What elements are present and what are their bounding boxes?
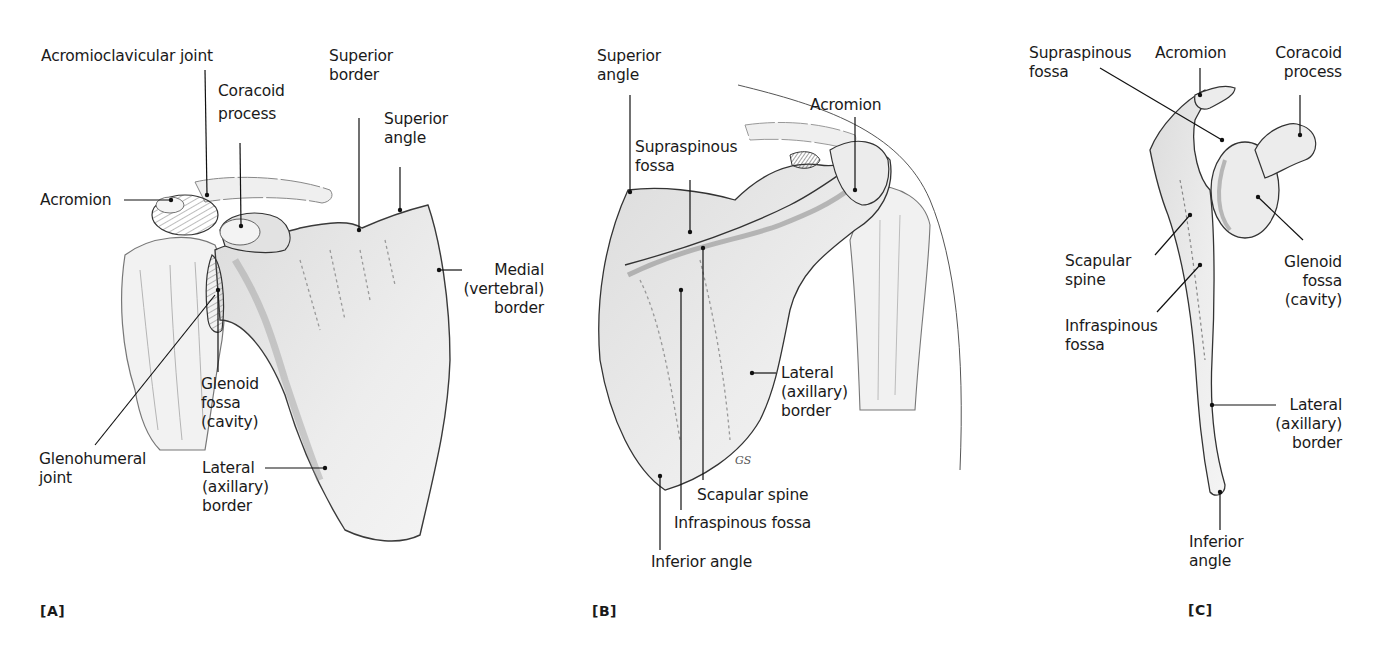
label-line: fossa (201, 394, 259, 413)
panel-tag-b: [B] (592, 603, 617, 619)
label-line: Scapular (1065, 252, 1131, 271)
label-line: Lateral (781, 364, 848, 383)
label-acromion-b: Acromion (810, 96, 881, 115)
label-inferior-angle-c: Inferior angle (1189, 533, 1243, 571)
label-coracoid-process-c: Coracoid process (1250, 44, 1342, 82)
label-line: angle (384, 129, 448, 148)
label-line: fossa (1256, 272, 1342, 291)
label-line: (axillary) (202, 478, 269, 497)
label-supraspinous-fossa-b: Supraspinous fossa (635, 138, 737, 176)
label-scapular-spine-c: Scapular spine (1065, 252, 1131, 290)
label-line: border (1256, 434, 1342, 453)
label-line: Lateral (202, 459, 269, 478)
label-line: fossa (1065, 336, 1158, 355)
label-lateral-border-b: Lateral (axillary) border (781, 364, 848, 421)
label-line: border (460, 299, 544, 318)
label-line: border (329, 66, 393, 85)
label-supraspinous-fossa-c: Supraspinous fossa (1029, 44, 1131, 82)
label-line: border (202, 497, 269, 516)
label-inferior-angle-b: Inferior angle (651, 553, 752, 572)
artist-signature: GS (735, 454, 752, 467)
label-lateral-border-a: Lateral (axillary) border (202, 459, 269, 516)
label-line: fossa (635, 157, 737, 176)
label-line: angle (1189, 552, 1243, 571)
label-line: (vertebral) (460, 280, 544, 299)
acromion-c (1195, 86, 1235, 109)
label-line: fossa (1029, 63, 1131, 82)
label-infraspinous-fossa-b: Infraspinous fossa (674, 514, 811, 533)
label-line: Superior (597, 47, 661, 66)
label-superior-angle-a: Superior angle (384, 110, 448, 148)
panel-tag-c: [C] (1188, 602, 1213, 618)
label-acromioclavicular-joint-a: Acromioclavicular joint (41, 47, 213, 66)
panel-tag-a: [A] (40, 603, 65, 619)
label-line: (axillary) (1256, 415, 1342, 434)
label-superior-border-a: Superior border (329, 47, 393, 85)
label-line: Glenoid (201, 375, 259, 394)
label-superior-angle-b: Superior angle (597, 47, 661, 85)
label-acromion-c: Acromion (1155, 44, 1226, 63)
label-line: Lateral (1256, 396, 1342, 415)
label-line: Supraspinous (635, 138, 737, 157)
label-line: border (781, 402, 848, 421)
label-line: (cavity) (1256, 291, 1342, 310)
label-line: Glenohumeral (39, 450, 146, 469)
label-glenoid-fossa-c: Glenoid fossa (cavity) (1256, 253, 1342, 310)
scapula-body-b (599, 155, 891, 490)
label-line: spine (1065, 271, 1131, 290)
label-line: Medial (460, 261, 544, 280)
label-line: joint (39, 469, 146, 488)
label-line: Coracoid (1250, 44, 1342, 63)
label-line: Infraspinous (1065, 317, 1158, 336)
label-scapular-spine-b: Scapular spine (697, 486, 808, 505)
label-line: Superior (384, 110, 448, 129)
label-line: Supraspinous (1029, 44, 1131, 63)
label-infraspinous-fossa-c: Infraspinous fossa (1065, 317, 1158, 355)
label-line: process (1250, 63, 1342, 82)
label-line: Coracoid (218, 82, 285, 101)
label-line: (axillary) (781, 383, 848, 402)
label-glenoid-fossa-a: Glenoid fossa (cavity) (201, 375, 259, 432)
label-glenohumeral-joint-a: Glenohumeral joint (39, 450, 146, 488)
label-line: angle (597, 66, 661, 85)
label-line: Inferior (1189, 533, 1243, 552)
label-medial-border-a: Medial (vertebral) border (460, 261, 544, 318)
label-lateral-border-c: Lateral (axillary) border (1256, 396, 1342, 453)
label-acromion-a: Acromion (40, 191, 111, 210)
clavicle-a (195, 177, 332, 203)
label-line: (cavity) (201, 413, 259, 432)
label-line: process (218, 105, 285, 124)
label-line: Superior (329, 47, 393, 66)
label-coracoid-process-a: Coracoid process (218, 82, 285, 124)
label-line: Glenoid (1256, 253, 1342, 272)
coracoid-c (1255, 124, 1316, 178)
scapula-body-c (1150, 90, 1225, 495)
